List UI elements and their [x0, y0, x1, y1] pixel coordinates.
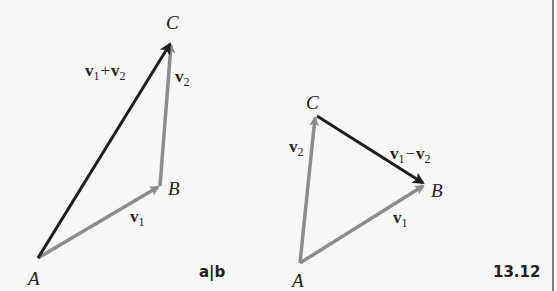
panel-label: a|b [199, 263, 226, 282]
vector-v2-arrow [160, 45, 171, 186]
v1-label-b: v1 [393, 208, 408, 230]
v2-label-b: v2 [289, 137, 304, 159]
sum-label: v1+v2 [85, 61, 126, 83]
figure-13-12: C B A v1 v2 v1+v2 a|b C B A v2 v1 v1−v2 … [0, 0, 557, 291]
figure-number: 13.12 [493, 263, 540, 281]
panel-b-vector-subtraction: C B A v2 v1 v1−v2 [289, 92, 443, 291]
v2-label: v2 [175, 67, 190, 89]
point-c-label: C [166, 12, 179, 33]
difference-label: v1−v2 [390, 144, 431, 166]
point-a-label: A [26, 268, 40, 289]
panel-a-vector-addition: C B A v1 v2 v1+v2 [26, 12, 190, 289]
vector-diagram: C B A v1 v2 v1+v2 a|b C B A v2 v1 v1−v2 … [0, 0, 557, 291]
vector-v2-arrow-b [300, 118, 315, 263]
point-a-label-b: A [290, 270, 304, 291]
point-c-label-b: C [306, 92, 319, 113]
point-b-label: B [168, 178, 180, 199]
v1-label: v1 [130, 207, 145, 229]
point-b-label-b: B [431, 180, 443, 201]
